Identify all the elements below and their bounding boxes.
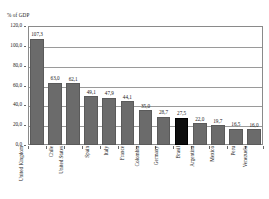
axis-unit-caption: % of GDP xyxy=(7,12,29,19)
bar-slot: 16,0 xyxy=(245,26,263,145)
x-category-label: Argentina xyxy=(189,146,194,167)
y-axis: 0,020,040,060,080,0100,0120,0 xyxy=(0,26,26,145)
x-category-label: Mexico xyxy=(210,146,215,162)
bar-value-label: 16,5 xyxy=(231,122,240,128)
category-slot: Mexico xyxy=(209,146,227,198)
bar[interactable] xyxy=(175,118,189,145)
bar[interactable] xyxy=(193,123,207,145)
bar-value-label: 22,0 xyxy=(195,117,204,123)
y-tick-mark xyxy=(24,66,27,67)
x-tick-mark xyxy=(28,146,29,149)
y-tick-label: 80,0 xyxy=(13,63,22,68)
bar[interactable] xyxy=(211,125,225,145)
y-tick-label: 20,0 xyxy=(13,123,22,128)
x-category-label: Germany xyxy=(154,146,159,165)
category-slot: Spain xyxy=(82,146,100,198)
bar-value-label: 44,1 xyxy=(123,95,132,101)
bar[interactable] xyxy=(30,39,44,145)
bar-slot: 22,0 xyxy=(191,26,209,145)
x-category-label: Spain xyxy=(85,146,90,158)
category-slot: Colombia xyxy=(136,146,154,198)
bar-slot: 107,3 xyxy=(28,26,46,145)
y-tick-mark xyxy=(24,26,27,27)
x-category-label: France xyxy=(120,146,125,160)
category-slot: United States xyxy=(64,146,82,198)
bar[interactable] xyxy=(157,117,171,145)
category-slot: Italy xyxy=(100,146,118,198)
category-slot: Germany xyxy=(155,146,173,198)
x-tick-mark xyxy=(100,146,101,149)
x-category-label: Venezuela xyxy=(243,146,248,167)
bar-slot: 19,7 xyxy=(209,26,227,145)
bar-chart: % of GDP 0,020,040,060,080,0100,0120,0 1… xyxy=(0,0,269,199)
bar-slot: 49,1 xyxy=(82,26,100,145)
y-tick-mark xyxy=(24,46,27,47)
y-tick-label: 40,0 xyxy=(13,103,22,108)
bar-slot: 63,0 xyxy=(46,26,64,145)
x-axis-categories: United KingdomChileUnited StatesSpainIta… xyxy=(28,146,263,198)
x-tick-mark xyxy=(263,146,264,149)
bar[interactable] xyxy=(247,129,261,145)
bar-slot: 47,9 xyxy=(100,26,118,145)
bar-value-label: 62,1 xyxy=(69,77,78,83)
y-tick-mark xyxy=(24,125,27,126)
bar-value-label: 107,3 xyxy=(31,32,43,38)
bar-value-label: 19,7 xyxy=(213,119,222,125)
category-slot: Venezuela xyxy=(245,146,263,198)
category-slot: United Kingdom xyxy=(28,146,46,198)
x-tick-mark xyxy=(46,146,47,149)
bar-value-label: 28,7 xyxy=(159,110,168,116)
bar-slot: 62,1 xyxy=(64,26,82,145)
bar-value-label: 16,0 xyxy=(249,123,258,129)
y-tick-label: 120,0 xyxy=(10,23,22,28)
bar-slot: 27,5 xyxy=(173,26,191,145)
x-category-label: Peru xyxy=(231,146,236,156)
bar-value-label: 63,0 xyxy=(51,76,60,82)
bar-slot: 16,5 xyxy=(227,26,245,145)
bar[interactable] xyxy=(66,83,80,145)
bar-value-label: 35,0 xyxy=(141,104,150,110)
x-category-label: Chile xyxy=(49,146,54,157)
bar-value-label: 47,9 xyxy=(105,91,114,97)
y-tick-mark xyxy=(24,86,27,87)
bars-group: 107,363,062,149,147,944,135,028,727,522,… xyxy=(28,26,263,145)
bar-slot: 28,7 xyxy=(155,26,173,145)
bar-slot: 35,0 xyxy=(136,26,154,145)
bar-value-label: 49,1 xyxy=(87,90,96,96)
bar-value-label: 27,5 xyxy=(177,111,186,117)
x-tick-mark xyxy=(173,146,174,149)
bar[interactable] xyxy=(102,98,116,146)
x-category-label: Brasil xyxy=(175,146,180,158)
y-tick-label: 100,0 xyxy=(10,43,22,48)
x-tick-mark xyxy=(82,146,83,149)
y-tick-label: 60,0 xyxy=(13,83,22,88)
x-category-label: Colombia xyxy=(135,146,140,166)
y-tick-mark xyxy=(24,105,27,106)
x-category-label: Italy xyxy=(105,146,110,156)
bar[interactable] xyxy=(139,110,153,145)
bar[interactable] xyxy=(48,83,62,145)
x-category-label: United States xyxy=(59,146,64,174)
bar[interactable] xyxy=(84,96,98,145)
bar-slot: 44,1 xyxy=(118,26,136,145)
x-tick-mark xyxy=(227,146,228,149)
bar[interactable] xyxy=(121,101,135,145)
category-slot: Argentina xyxy=(191,146,209,198)
bar[interactable] xyxy=(229,129,243,145)
x-category-label: United Kingdom xyxy=(20,146,25,181)
